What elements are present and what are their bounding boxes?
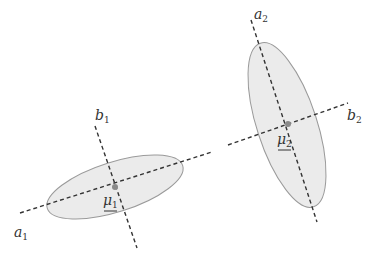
cluster-1: [20, 126, 212, 248]
label-b1: b1: [95, 107, 110, 125]
label-a2: a2: [254, 6, 268, 24]
label-b2: b2: [347, 107, 362, 125]
diagram-canvas: a1 b1 μ1 a2 b2 μ2: [0, 0, 373, 259]
mean-2-point: [285, 121, 291, 127]
label-a1: a1: [14, 224, 28, 242]
cluster-2: [228, 20, 348, 222]
mean-1-point: [112, 184, 118, 190]
